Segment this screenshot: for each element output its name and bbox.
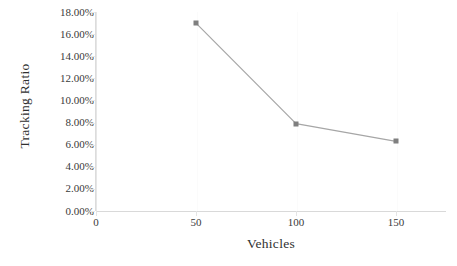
data-point-marker [394, 139, 399, 144]
y-axis-tick-mark [90, 12, 95, 13]
y-axis-tick-mark [90, 211, 95, 212]
y-axis-tick-mark [90, 189, 95, 190]
y-axis-tick-mark [90, 100, 95, 101]
x-axis-ticklabel: 100 [288, 216, 305, 228]
x-axis-title: Vehicles [96, 236, 446, 252]
y-axis-tick-mark [90, 56, 95, 57]
data-point-marker [194, 21, 199, 26]
x-axis-tick-mark [96, 211, 97, 216]
data-point-marker [294, 121, 299, 126]
x-axis-ticklabel: 0 [93, 216, 99, 228]
x-axis-ticklabel: 150 [388, 216, 405, 228]
x-axis-tick-mark [396, 211, 397, 216]
y-axis-tick-mark [90, 123, 95, 124]
line-chart: Tracking Ratio 0.00%2.00%4.00%6.00%8.00%… [0, 0, 457, 266]
y-axis-tick-mark [90, 145, 95, 146]
x-axis-tick-mark [196, 211, 197, 216]
x-axis-tick-mark [296, 211, 297, 216]
y-axis-tick-mark [90, 78, 95, 79]
x-axis-ticklabel: 50 [191, 216, 202, 228]
x-axis-ticklabels: 050100150 [0, 216, 457, 232]
y-axis-tick-mark [90, 167, 95, 168]
y-axis-tick-mark [90, 34, 95, 35]
x-axis-title-text: Vehicles [247, 236, 295, 251]
